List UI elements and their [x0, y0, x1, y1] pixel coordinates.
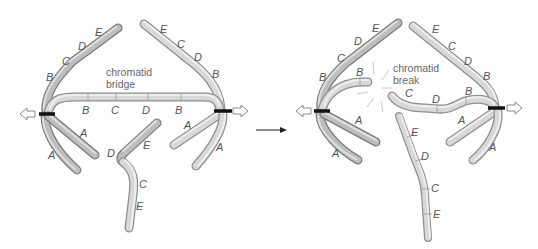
gene-label: E: [411, 126, 419, 138]
right-hollow-arrow-icon: [507, 102, 522, 114]
gene-label: C: [405, 87, 413, 99]
gene-label: D: [354, 35, 362, 47]
gene-label: E: [372, 22, 380, 34]
left-hollow-arrow-icon: [296, 105, 311, 117]
gene-label: A: [47, 149, 55, 161]
gene-label: C: [62, 55, 70, 67]
chromatid-break-caption-line1: chromatid: [393, 62, 439, 74]
gene-label: D: [194, 51, 202, 63]
gene-label: C: [337, 52, 345, 64]
gene-label: B: [465, 85, 472, 97]
left-lower-left-chromatids: [43, 114, 95, 170]
chromatid-diagram: chromatid bridge B C D E E C D B B C D B…: [0, 0, 538, 249]
left-hollow-arrow-icon: [20, 108, 35, 120]
gene-label: D: [142, 104, 150, 116]
gene-label: C: [177, 38, 185, 50]
gene-label: A: [331, 147, 339, 159]
gene-label: E: [432, 23, 440, 35]
gene-label: D: [432, 93, 440, 105]
transition-arrow-icon: [256, 127, 287, 133]
gene-label: E: [143, 139, 151, 151]
right-panel: chromatid break B C D E B E C D B C D B …: [296, 22, 522, 238]
gene-label: A: [215, 141, 223, 153]
chromatid-break-caption-line2: break: [393, 74, 420, 86]
gene-label: C: [111, 104, 119, 116]
chromatid-bridge-caption-line1: chromatid: [106, 66, 152, 78]
gene-label: A: [183, 119, 191, 131]
gene-label: D: [78, 40, 86, 52]
left-fragment-lower: [123, 160, 136, 228]
gene-label: A: [488, 141, 496, 153]
gene-label: B: [46, 71, 53, 83]
left-panel: chromatid bridge B C D E E C D B B C D B…: [20, 22, 248, 228]
left-fragment-upper: [121, 121, 157, 162]
gene-label: B: [319, 71, 326, 83]
chromatid-bridge: [48, 93, 220, 112]
gene-label: C: [139, 178, 147, 190]
left-lower-right-chromatids: [173, 112, 225, 166]
gene-label: D: [107, 147, 115, 159]
gene-label: C: [431, 182, 439, 194]
right-hollow-arrow-icon: [233, 105, 248, 117]
gene-label: D: [421, 150, 429, 162]
gene-label: E: [136, 200, 144, 212]
gene-label: A: [79, 127, 87, 139]
gene-label: E: [160, 23, 168, 35]
gene-label: D: [464, 55, 472, 67]
right-lower-left-chromatids: [318, 112, 376, 160]
gene-label: A: [354, 114, 362, 126]
gene-label: E: [433, 208, 441, 220]
gene-label: B: [356, 66, 363, 78]
gene-label: B: [175, 104, 182, 116]
gene-label: E: [95, 26, 103, 38]
gene-label: A: [457, 114, 465, 126]
gene-label: B: [82, 104, 89, 116]
chromatid-bridge-caption-line2: bridge: [106, 78, 135, 90]
gene-label: B: [483, 70, 490, 82]
gene-label: B: [212, 68, 219, 80]
gene-label: C: [448, 40, 456, 52]
